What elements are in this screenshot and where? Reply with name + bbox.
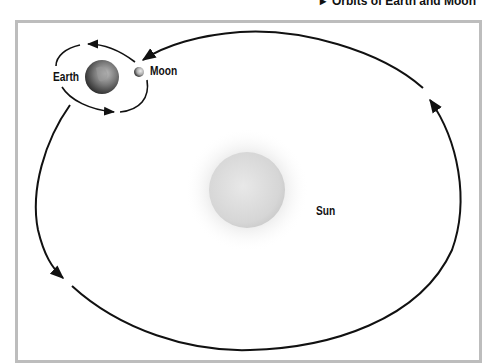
moon-orbit-arc-top <box>88 44 135 62</box>
orbit-arc-left <box>36 105 70 278</box>
moon-orbit-arc-left <box>56 45 80 66</box>
earth-label: Earth <box>53 70 79 84</box>
moon-orbit-arc-right <box>120 80 148 112</box>
sun-label: Sun <box>316 204 335 218</box>
sun <box>185 128 309 252</box>
moon-icon <box>134 67 144 77</box>
orbit-arc-top <box>143 32 423 88</box>
sun-icon <box>209 152 285 228</box>
orbit-diagram <box>0 0 493 363</box>
moon-label: Moon <box>150 64 177 78</box>
